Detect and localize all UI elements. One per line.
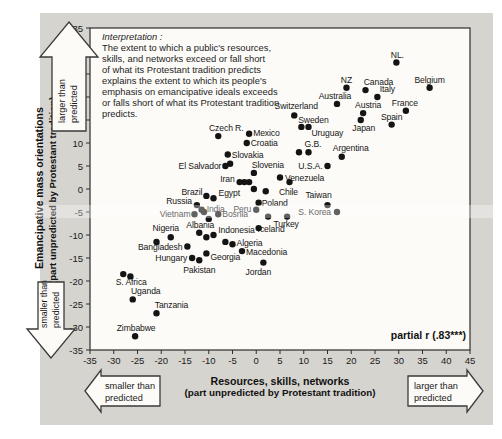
country-label: Sweden xyxy=(298,115,329,125)
up-arrow-label-line1: larger than xyxy=(57,79,67,123)
data-point xyxy=(203,250,209,256)
data-point xyxy=(196,230,202,236)
data-point xyxy=(426,85,432,91)
data-point xyxy=(198,207,204,213)
country-label: Chile xyxy=(279,187,298,197)
data-point xyxy=(222,163,228,169)
data-point xyxy=(251,170,257,176)
data-point xyxy=(168,234,174,240)
interpretation-line: emphasis on emancipative ideals exceeds xyxy=(102,86,300,97)
data-point xyxy=(324,163,330,169)
data-point xyxy=(246,131,252,137)
country-label: Egypt xyxy=(219,188,241,198)
country-label: France xyxy=(392,98,418,108)
x-tick-label: -30 xyxy=(107,355,121,366)
country-label: Uganda xyxy=(131,286,161,296)
data-point xyxy=(210,195,216,201)
data-point xyxy=(305,149,311,155)
x-tick-label: 30 xyxy=(393,355,404,366)
country-label: Japan xyxy=(352,123,375,133)
country-label: Indonesia xyxy=(218,225,255,235)
data-point xyxy=(203,193,209,199)
y-tick-label: 0 xyxy=(78,184,83,195)
scanned-figure-page: { "figure": { "interpretation": { "headi… xyxy=(0,0,502,439)
country-label: Nigeria xyxy=(152,223,179,233)
data-point xyxy=(286,179,292,185)
country-label: Croatia xyxy=(251,138,278,148)
country-label: Russia xyxy=(166,196,192,206)
data-point xyxy=(334,101,340,107)
x-tick-label: 10 xyxy=(298,355,309,366)
country-label: Slovakia xyxy=(232,150,264,160)
data-point xyxy=(277,174,283,180)
country-label: Austria xyxy=(355,100,381,110)
country-label: Taiwan xyxy=(305,190,331,200)
arrow-up: larger than predicted xyxy=(40,22,98,132)
left-arrow-icon xyxy=(85,370,160,412)
x-tick-label: -25 xyxy=(131,355,145,366)
data-point xyxy=(339,154,345,160)
x-tick-label: -10 xyxy=(202,355,216,366)
x-tick-label: 25 xyxy=(370,355,381,366)
country-label: Italy xyxy=(380,84,396,94)
data-point xyxy=(210,232,216,238)
country-label: Uruguay xyxy=(312,128,345,138)
right-arrow-label-line2: predicted xyxy=(414,393,452,403)
data-point xyxy=(229,241,235,247)
data-point xyxy=(251,186,257,192)
left-arrow-label-line2: predicted xyxy=(105,393,143,403)
data-point xyxy=(132,333,138,339)
right-arrow-label-line1: larger than xyxy=(414,381,458,391)
x-tick-label: -5 xyxy=(228,355,236,366)
data-point xyxy=(130,296,136,302)
x-tick-label: -35 xyxy=(83,355,97,366)
country-label: Hungary xyxy=(155,253,188,263)
y-tick-label: 5 xyxy=(78,161,83,172)
country-label: Turkey xyxy=(273,219,299,229)
data-point xyxy=(196,257,202,263)
left-arrow-label-line1: smaller than xyxy=(105,381,155,391)
interpretation-line: predicts. xyxy=(102,108,300,119)
data-point xyxy=(260,259,266,265)
y-tick-label: 10 xyxy=(72,138,83,149)
data-point xyxy=(194,202,200,208)
data-point xyxy=(403,108,409,114)
country-label: Bangladesh xyxy=(138,242,183,252)
data-point xyxy=(191,211,197,217)
data-point xyxy=(388,121,394,127)
y-tick-label: -10 xyxy=(69,230,83,241)
country-label: Tanzania xyxy=(155,300,189,310)
x-tick-label: 45 xyxy=(465,355,476,366)
data-point xyxy=(360,110,366,116)
x-tick-label: 40 xyxy=(441,355,452,366)
country-label: Iran xyxy=(220,174,235,184)
interpretation-line: of what its Protestant tradition predict… xyxy=(102,64,300,75)
up-arrow-label-line2: predicted xyxy=(69,85,79,123)
country-label: G.B. xyxy=(305,139,322,149)
country-label: U.S.A. xyxy=(298,161,322,171)
country-label: Macedonia xyxy=(246,247,287,257)
x-tick-label: 20 xyxy=(346,355,357,366)
data-point xyxy=(253,207,259,213)
data-point xyxy=(203,234,209,240)
interpretation-heading: Interpretation : xyxy=(102,31,300,42)
country-label: Bosnia xyxy=(222,209,248,219)
interpretation-line: skills, and networks exceed or fall shor… xyxy=(102,53,300,64)
x-tick-label: -20 xyxy=(154,355,168,366)
arrow-down: smaller than predicted xyxy=(27,282,75,358)
data-point xyxy=(189,255,195,261)
country-label: Mexico xyxy=(253,128,280,138)
data-point xyxy=(334,209,340,215)
y-tick-label: -5 xyxy=(75,207,83,218)
interpretation-line: explains the extent to which its people'… xyxy=(102,75,300,86)
data-point xyxy=(215,133,221,139)
x-tick-label: 0 xyxy=(254,355,259,366)
country-label: Argentina xyxy=(333,143,369,153)
data-point xyxy=(393,59,399,65)
data-point xyxy=(246,179,252,185)
x-tick-label: 5 xyxy=(277,355,282,366)
data-point xyxy=(222,239,228,245)
arrow-right: larger than predicted xyxy=(407,370,483,412)
country-label: Pakistan xyxy=(183,265,215,275)
data-point xyxy=(153,310,159,316)
